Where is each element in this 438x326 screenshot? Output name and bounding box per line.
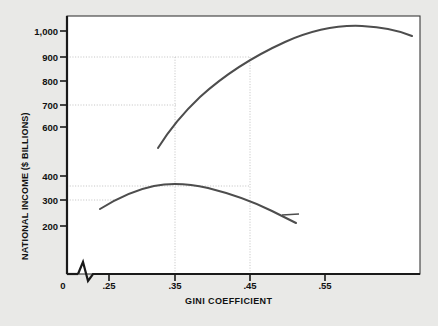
leader-line-poorest-60 [282, 214, 299, 215]
chart-figure: NATIONAL INCOME ($ BILLIONS) 1,000 900 8… [0, 0, 438, 326]
plot-area-background [67, 16, 420, 274]
plot-canvas [0, 0, 438, 326]
